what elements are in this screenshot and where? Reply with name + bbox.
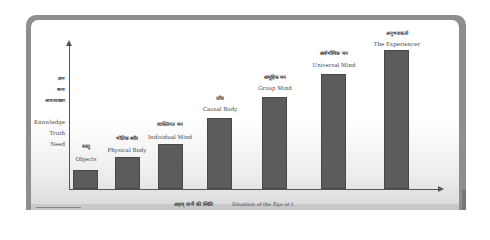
frame-edge (462, 190, 466, 210)
footer-line (36, 207, 81, 208)
bar-label-individual-mind: Individual Mind (148, 134, 192, 140)
bar-label-universal-mind: Universal Mind (313, 62, 356, 68)
x-axis-label: Situation of the Ego or I (232, 201, 293, 207)
bar-label-hindi-the-experiencer: अनुभवकर्ता (386, 30, 408, 36)
bar-label-hindi-objects: वस्तु (82, 143, 90, 149)
y-label-hindi-1: ज्ञान (58, 75, 65, 81)
bar-label-causal-body: Causal Body (203, 106, 238, 112)
bar-label-objects: Objects (75, 156, 96, 162)
bar-individual-mind (158, 144, 183, 189)
x-axis-arrow-icon (438, 186, 444, 192)
y-label-hindi-2: सत्य (57, 86, 65, 92)
bar-label-the-experiencer: The Experiencer (374, 41, 420, 47)
y-label-truth: Truth (49, 130, 65, 136)
y-label-need: Need (50, 141, 65, 147)
bar-universal-mind (321, 74, 346, 189)
bar-label-hindi-group-mind: सामूहिक मन (264, 74, 287, 80)
y-axis (69, 45, 70, 190)
bar-label-group-mind: Group Mind (258, 85, 292, 91)
bar-objects (73, 170, 98, 189)
x-axis (69, 189, 440, 190)
x-axis-label-hindi: अहम् या मैं की स्थिति (174, 201, 213, 207)
y-label-hindi-3: आवश्यकता (45, 97, 65, 103)
bar-label-hindi-physical-body: भौतिक शरीर (116, 135, 139, 141)
bar-physical-body (115, 157, 140, 189)
bar-the-experiencer (384, 50, 409, 189)
bar-label-physical-body: Physical Body (108, 147, 147, 153)
bar-group-mind (262, 97, 287, 189)
y-label-knowledge: Knowledge (34, 119, 65, 125)
bar-causal-body (207, 118, 232, 189)
bar-label-hindi-universal-mind: सार्वभौमिक मन (320, 50, 348, 56)
bar-label-hindi-causal-body: जीव (216, 95, 224, 101)
bar-label-hindi-individual-mind: व्यक्तिगत मन (157, 121, 183, 127)
y-axis-arrow-icon (66, 40, 72, 46)
